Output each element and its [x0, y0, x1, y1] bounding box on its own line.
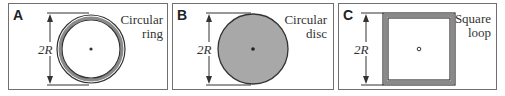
caption-c-line2: loop [455, 26, 491, 40]
caption-a: Circular ring [120, 13, 163, 41]
dimension-label-c: 2R [354, 42, 368, 58]
panel-c: C 2R Square loop [338, 3, 497, 90]
caption-c: Square loop [455, 12, 491, 40]
caption-c-line1: Square [455, 12, 491, 26]
caption-b: Circular disc [284, 13, 327, 41]
caption-a-line1: Circular [120, 13, 163, 27]
caption-b-line2: disc [284, 27, 327, 41]
caption-b-line1: Circular [284, 13, 327, 27]
dimension-label-a: 2R [38, 42, 52, 58]
dimension-label-b: 2R [197, 42, 211, 58]
panel-b: B 2R Circular disc [172, 3, 334, 90]
panel-a: A 2R Circular ring [8, 3, 168, 90]
caption-a-line2: ring [120, 27, 163, 41]
